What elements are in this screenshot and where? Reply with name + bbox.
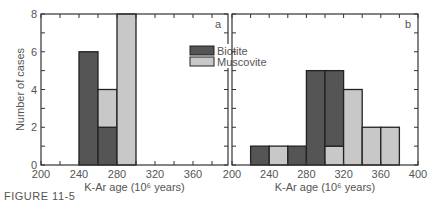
x-tick-label: 360 xyxy=(184,168,202,180)
x-tick-label: 320 xyxy=(146,168,164,180)
biotite-bar xyxy=(306,71,325,165)
biotite-bar xyxy=(325,71,344,147)
panel-label: a xyxy=(215,18,222,30)
x-tick-label: 240 xyxy=(260,168,278,180)
y-tick-label: 6 xyxy=(31,46,37,58)
x-axis-label: K-Ar age (10⁶ years) xyxy=(84,181,185,193)
figure-caption: FIGURE 11-5 xyxy=(4,190,75,202)
y-tick-label: 2 xyxy=(31,121,37,133)
muscovite-bar xyxy=(117,14,136,165)
muscovite-bar xyxy=(269,146,288,165)
biotite-bar xyxy=(288,146,307,165)
x-tick-label: 280 xyxy=(297,168,315,180)
biotite-bar xyxy=(251,146,270,165)
muscovite-bar xyxy=(362,127,381,165)
panel-b: 200240280320360400K-Ar age (10⁶ years)b xyxy=(223,14,427,193)
panel-label: b xyxy=(405,18,411,30)
x-axis-label: K-Ar age (10⁶ years) xyxy=(275,181,376,193)
muscovite-bar xyxy=(344,90,363,166)
legend-swatch xyxy=(190,57,214,66)
legend-label: Muscovite xyxy=(217,56,267,68)
muscovite-bar xyxy=(381,127,400,165)
x-tick-label: 280 xyxy=(108,168,126,180)
x-tick-label: 200 xyxy=(223,168,241,180)
panel-a: 20024028032036002468Number of casesK-Ar … xyxy=(14,8,228,193)
biotite-bar xyxy=(98,127,117,165)
y-axis-label: Number of cases xyxy=(14,47,26,131)
x-tick-label: 400 xyxy=(409,168,427,180)
histogram-figure: 20024028032036002468Number of casesK-Ar … xyxy=(0,0,447,212)
y-tick-label: 4 xyxy=(31,84,37,96)
biotite-bar xyxy=(79,52,98,165)
x-tick-label: 360 xyxy=(372,168,390,180)
y-tick-label: 8 xyxy=(31,8,37,20)
muscovite-bar xyxy=(325,146,344,165)
y-tick-label: 0 xyxy=(31,159,37,171)
x-tick-label: 320 xyxy=(334,168,352,180)
x-tick-label: 240 xyxy=(70,168,88,180)
legend-swatch xyxy=(190,46,214,55)
muscovite-bar xyxy=(98,90,117,128)
